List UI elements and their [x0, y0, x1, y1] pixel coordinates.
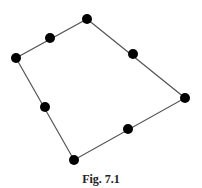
midpoint-left-top: [45, 33, 55, 43]
quadrilateral-diagram: [0, 0, 202, 188]
vertex-right: [180, 93, 190, 103]
vertex-bottom: [69, 155, 79, 165]
midpoint-top-right: [128, 49, 138, 59]
figure-caption: Fig. 7.1: [0, 172, 202, 187]
midpoint-bottom-left: [40, 102, 50, 112]
quadrilateral-outline: [16, 19, 185, 160]
vertex-dots: [11, 14, 190, 165]
midpoint-right-bottom: [123, 124, 133, 134]
vertex-top: [82, 14, 92, 24]
vertex-left: [11, 53, 21, 63]
